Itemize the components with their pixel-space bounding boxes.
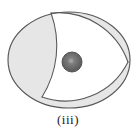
figure-caption: (iii) (0, 112, 136, 128)
center-dot-highlight (69, 59, 73, 63)
center-dot (62, 52, 82, 72)
figure-panel: (iii) (0, 0, 136, 136)
